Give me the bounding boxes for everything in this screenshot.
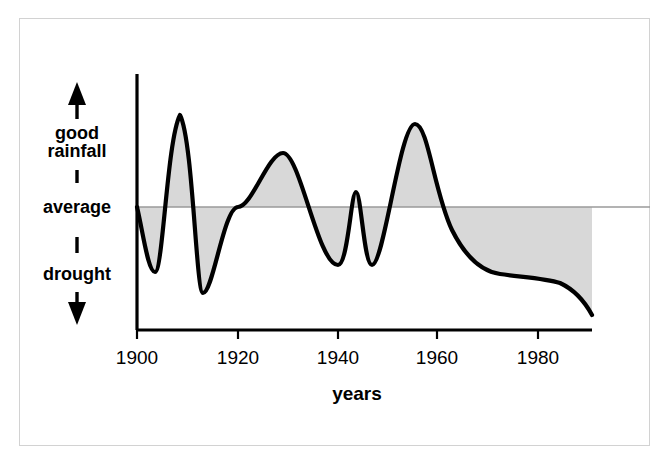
x-axis-title: years — [332, 383, 382, 404]
x-tick-label-1900: 1900 — [116, 347, 158, 368]
arrow-up-icon — [68, 82, 86, 119]
label-good-rainfall-line1: good — [55, 123, 99, 143]
x-tick-label-1920: 1920 — [217, 347, 259, 368]
label-drought: drought — [43, 264, 111, 284]
rainfall-band-fill — [137, 100, 592, 340]
chart-canvas: 1900 1920 1940 1960 1980 years good rain… — [0, 0, 670, 468]
x-tick-label-1960: 1960 — [416, 347, 458, 368]
label-average: average — [43, 197, 111, 217]
x-tick-label-1980: 1980 — [517, 347, 559, 368]
arrow-down-icon — [68, 292, 86, 325]
label-good-rainfall-line2: rainfall — [47, 141, 106, 161]
rainfall-chart: 1900 1920 1940 1960 1980 years good rain… — [0, 0, 670, 468]
x-tick-label-1940: 1940 — [317, 347, 359, 368]
